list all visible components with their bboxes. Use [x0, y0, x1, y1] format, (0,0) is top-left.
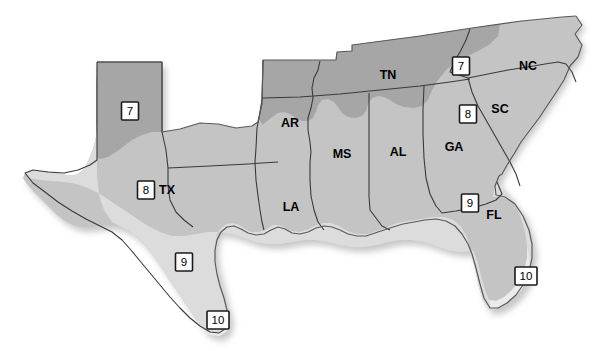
map-svg: TX LA AR MS AL TN GA SC NC FL 7 8 9 [0, 0, 607, 351]
zone-marker-9-florida: 9 [462, 194, 479, 212]
zone-marker-label: 7 [458, 60, 464, 72]
zone-marker-10-texas: 10 [207, 311, 229, 329]
state-label-nc: NC [519, 59, 537, 73]
hardiness-zone-map: TX LA AR MS AL TN GA SC NC FL 7 8 9 [0, 0, 607, 351]
state-label-fl: FL [486, 208, 502, 222]
state-label-tn: TN [380, 68, 397, 82]
state-label-la: LA [283, 200, 300, 214]
state-label-ar: AR [281, 116, 299, 130]
zone-marker-label: 9 [181, 256, 187, 268]
state-label-ga: GA [445, 140, 464, 154]
zone-marker-label: 8 [143, 184, 149, 196]
state-label-sc: SC [491, 102, 508, 116]
zone-marker-7-tennessee: 7 [453, 57, 470, 75]
zone-marker-7-texas: 7 [122, 102, 139, 120]
zone-marker-9-texas: 9 [176, 253, 193, 271]
state-label-al: AL [390, 145, 407, 159]
zone-marker-8-southcarolina: 8 [460, 105, 477, 123]
zone-marker-label: 9 [467, 197, 473, 209]
zone-marker-label: 8 [465, 108, 471, 120]
zone-marker-label: 10 [212, 314, 225, 326]
zone-marker-8-texas: 8 [138, 181, 155, 199]
zone-fill-layer [23, 16, 581, 336]
state-label-ms: MS [333, 147, 352, 161]
state-label-tx: TX [159, 183, 176, 197]
zone-marker-10-florida: 10 [515, 267, 537, 285]
zone-marker-label: 7 [127, 105, 133, 117]
zone-marker-label: 10 [520, 270, 533, 282]
